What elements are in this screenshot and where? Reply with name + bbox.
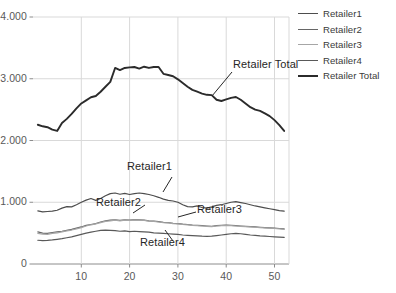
legend-label: Retailer4 [323,55,362,66]
legend-label: Retailer2 [323,24,362,35]
legend-item-retailer2[interactable]: Retailer2 [298,22,396,38]
legend-item-retailer1[interactable]: Retailer1 [298,6,396,22]
chart-legend: Retailer1Retailer2Retailer3Retailer4Reta… [298,6,396,84]
y-axis-tick-label: 4.000 [0,10,27,22]
x-axis-tick-label: 10 [70,270,92,282]
y-axis-tick-label: 2.000 [0,134,27,146]
y-axis-tick-label: 0 [21,257,27,269]
legend-item-retailer-total[interactable]: Retailer Total [298,68,396,84]
annotation-retailer1: Retailer1 [127,160,172,172]
legend-color-swatch [298,44,318,45]
y-axis-tick-label: 1.000 [0,195,27,207]
legend-color-swatch [298,29,318,30]
x-axis-tick-label: 40 [215,270,237,282]
legend-label: Retailer Total [323,70,380,81]
legend-color-swatch [298,60,318,61]
legend-label: Retailer1 [323,8,362,19]
legend-color-swatch [298,75,318,77]
annotation-retailer2: Retailer2 [96,196,141,208]
line-chart: 01.0002.0003.0004.0001020304050 Retailer… [0,0,396,293]
annotation-retailer3: Retailer3 [197,203,242,215]
series-line-retailer-total [38,67,284,131]
legend-item-retailer3[interactable]: Retailer3 [298,37,396,53]
legend-label: Retailer3 [323,39,362,50]
x-axis-tick-label: 50 [264,270,286,282]
legend-item-retailer4[interactable]: Retailer4 [298,53,396,69]
y-axis-tick-label: 3.000 [0,72,27,84]
legend-color-swatch [298,13,318,14]
annotation-retailer-total: Retailer Total [233,58,298,70]
annotation-retailer4: Retailer4 [140,236,185,248]
x-axis-tick-label: 20 [119,270,141,282]
series-line-retailer3 [38,220,284,235]
x-axis-tick-label: 30 [167,270,189,282]
